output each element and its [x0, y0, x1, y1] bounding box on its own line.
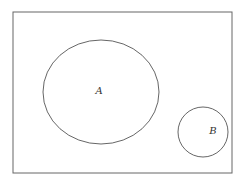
universe-rectangle [13, 12, 232, 173]
venn-diagram: A B [0, 0, 244, 183]
set-b-label: B [208, 125, 216, 136]
set-b-circle [178, 107, 228, 157]
set-a-label: A [94, 85, 102, 96]
